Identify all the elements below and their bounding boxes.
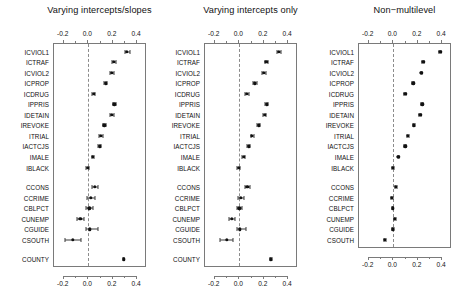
row-label-iblack: IBLACK: [306, 164, 354, 171]
row-label-cblpct: CBLPCT: [306, 205, 354, 212]
axis-minor-tick-bottom: [429, 257, 430, 259]
row-label-icviol1: ICVIOL1: [306, 48, 354, 55]
axis-minor-tick-bottom: [405, 257, 406, 259]
axis-minor-tick-top: [380, 41, 381, 43]
axis-tick-top: [392, 40, 393, 43]
row-label-ccrime: CCRIME: [306, 194, 354, 201]
row-label-icprop: ICPROP: [306, 80, 354, 87]
axis-tick-label-top: -0.2: [362, 30, 373, 37]
axis-tick-bottom: [417, 257, 418, 260]
row-label-icdrug: ICDRUG: [306, 90, 354, 97]
axis-tick-label-top: 0.4: [437, 30, 446, 37]
row-label-idetain: IDETAIN: [306, 111, 354, 118]
axis-tick-label-bottom: 0.2: [412, 261, 421, 268]
row-label-ccons: CCONS: [306, 184, 354, 191]
row-label-ictraf: ICTRAF: [306, 59, 354, 66]
axis-tick-label-bottom: 0.0: [388, 261, 397, 268]
row-label-imale: IMALE: [306, 154, 354, 161]
row-label-cguide: CGUIDE: [306, 226, 354, 233]
axis-tick-bottom: [441, 257, 442, 260]
axis-tick-top: [417, 40, 418, 43]
axis-tick-label-bottom: 0.4: [437, 261, 446, 268]
row-label-cunemp: CUNEMP: [306, 215, 354, 222]
row-label-csouth: CSOUTH: [306, 236, 354, 243]
axis-tick-label-top: 0.2: [412, 30, 421, 37]
row-label-ippris: IPPRIS: [306, 101, 354, 108]
axis-tick-top: [368, 40, 369, 43]
axis-tick-bottom: [392, 257, 393, 260]
axis-tick-top: [441, 40, 442, 43]
axis-tick-label-top: 0.0: [388, 30, 397, 37]
axis-minor-tick-top: [405, 41, 406, 43]
row-label-irevoke: IREVOKE: [306, 122, 354, 129]
row-label-icviol2: ICVIOL2: [306, 69, 354, 76]
panel-title: Non−multilevel: [314, 5, 459, 15]
row-label-iactcjs: IACTCJS: [306, 143, 354, 150]
row-label-itrial: ITRIAL: [306, 132, 354, 139]
axis-minor-tick-bottom: [380, 257, 381, 259]
axis-minor-tick-top: [429, 41, 430, 43]
axis-tick-bottom: [368, 257, 369, 260]
axis-tick-label-bottom: -0.2: [362, 261, 373, 268]
